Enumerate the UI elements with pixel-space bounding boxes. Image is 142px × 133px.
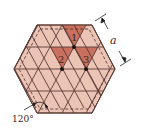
- site-dot-2: [60, 67, 64, 71]
- site-label-2: 2: [58, 54, 64, 65]
- site-label-1: 1: [71, 32, 77, 43]
- site-dot-3: [84, 67, 88, 71]
- site-label-3: 3: [83, 54, 89, 65]
- lattice-constant-label: a: [110, 34, 117, 47]
- angle-label: 120°: [12, 114, 34, 124]
- site-dot-1: [72, 45, 76, 49]
- hexagonal-lattice-diagram: 1 2 3 a 120°: [0, 0, 142, 133]
